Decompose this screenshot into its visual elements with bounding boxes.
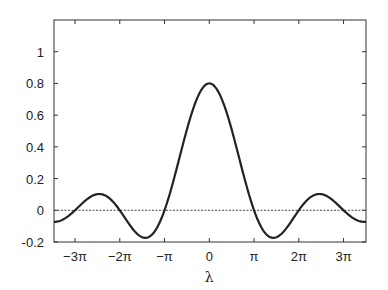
plot-frame — [54, 20, 366, 242]
x-tick-label: 2π — [291, 249, 307, 264]
y-tick-label: -0.2 — [22, 235, 44, 250]
x-tick-label: 3π — [335, 249, 351, 264]
x-tick-label: 0 — [206, 249, 213, 264]
y-tick-label: 0.2 — [26, 172, 44, 187]
x-tick-label: −3π — [63, 249, 87, 264]
x-tick-label: −π — [156, 249, 173, 264]
chart: −3π−2π−π0π2π3π -0.200.20.40.60.81 λ — [0, 0, 388, 290]
y-tick-label: 0.4 — [26, 140, 44, 155]
y-tick-label: 0.8 — [26, 76, 44, 91]
x-tick-label: π — [250, 249, 259, 264]
x-axis-label: λ — [205, 269, 214, 285]
x-axis-ticks: −3π−2π−π0π2π3π — [63, 20, 352, 264]
y-tick-label: 0 — [37, 203, 44, 218]
data-curve — [54, 83, 366, 237]
y-axis-ticks: -0.200.20.40.60.81 — [22, 45, 366, 250]
x-tick-label: −2π — [108, 249, 132, 264]
y-tick-label: 0.6 — [26, 108, 44, 123]
y-tick-label: 1 — [37, 45, 44, 60]
